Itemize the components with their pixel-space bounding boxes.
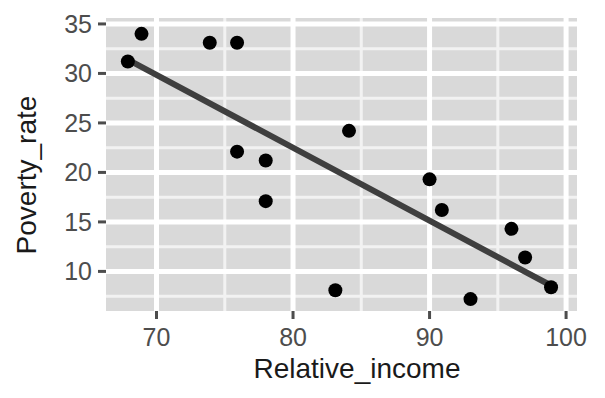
- data-point: [342, 124, 356, 138]
- x-tick-label: 100: [545, 323, 587, 351]
- x-tick-label: 90: [416, 323, 444, 351]
- panel-background: [106, 18, 577, 311]
- data-point: [518, 251, 532, 265]
- data-point: [259, 194, 273, 208]
- y-axis-title: Poverty_rate: [11, 96, 42, 255]
- chart-canvas: 353025201510 708090100 Poverty_rate Rela…: [0, 0, 605, 398]
- data-point: [544, 280, 558, 294]
- data-point: [464, 292, 478, 306]
- x-tick-label: 70: [143, 323, 171, 351]
- y-tick-label: 35: [64, 10, 92, 38]
- data-point: [259, 154, 273, 168]
- data-point: [134, 27, 148, 41]
- data-point: [435, 203, 449, 217]
- y-tick-label: 10: [64, 257, 92, 285]
- data-point: [328, 283, 342, 297]
- y-tick-label: 15: [64, 208, 92, 236]
- data-point: [230, 145, 244, 159]
- scatter-plot-figure: 353025201510 708090100 Poverty_rate Rela…: [0, 0, 605, 398]
- data-point: [423, 172, 437, 186]
- x-tick-label: 80: [279, 323, 307, 351]
- data-point: [203, 36, 217, 50]
- data-point: [230, 36, 244, 50]
- data-point: [121, 55, 135, 69]
- x-axis-title: Relative_income: [254, 353, 461, 384]
- y-tick-label: 20: [64, 158, 92, 186]
- data-point: [504, 222, 518, 236]
- y-tick-label: 30: [64, 59, 92, 87]
- plot-panel: [106, 18, 577, 311]
- y-tick-label: 25: [64, 109, 92, 137]
